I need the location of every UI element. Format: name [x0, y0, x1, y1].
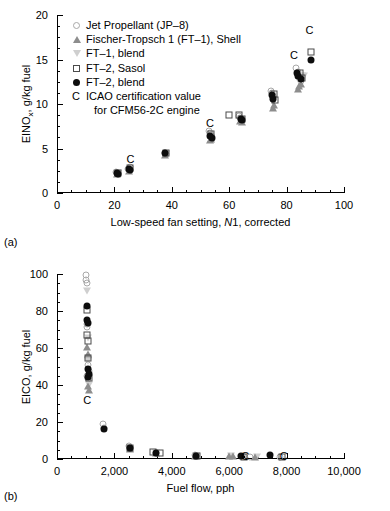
- y-axis-title-b: EICO, g/kg fuel: [20, 329, 32, 404]
- y-tick-major: [57, 104, 63, 105]
- data-point: C: [290, 50, 298, 61]
- y-tick-minor: [57, 171, 60, 172]
- y-tick-label: 60: [0, 343, 48, 354]
- x-tick-major: [344, 453, 345, 459]
- y-tick-minor: [57, 376, 60, 377]
- y-tick-minor: [57, 182, 60, 183]
- data-point: [239, 117, 246, 124]
- x-tick-minor: [244, 190, 245, 193]
- legend-continuation-row: for CFM56-2C engine: [72, 103, 241, 117]
- x-tick-minor: [201, 190, 202, 193]
- y-tick-minor: [57, 431, 60, 432]
- data-point: [84, 373, 91, 380]
- x-tick-minor: [315, 456, 316, 459]
- data-point: [307, 57, 314, 64]
- y-tick-minor: [57, 357, 60, 358]
- x-tick-major: [114, 187, 115, 193]
- data-point: [127, 444, 134, 451]
- marker-down-triangle: [73, 50, 81, 57]
- data-point: [307, 49, 314, 56]
- marker-open-square: [85, 355, 92, 362]
- marker-filled-circle: [270, 95, 277, 102]
- y-tick-minor: [57, 320, 60, 321]
- y-tick-label: 80: [0, 306, 48, 317]
- marker-filled-circle: [239, 117, 246, 124]
- x-tick-minor: [330, 456, 331, 459]
- x-tick-major: [287, 187, 288, 193]
- legend-item: Jet Propellant (JP–8): [72, 18, 241, 32]
- x-tick-label: 40: [166, 200, 178, 211]
- x-tick-minor: [71, 456, 72, 459]
- x-tick-minor: [315, 190, 316, 193]
- y-tick-major: [57, 422, 63, 423]
- legend-item: CICAO certification value: [72, 89, 241, 103]
- panel-label-a: (a): [4, 236, 17, 248]
- data-point: [83, 287, 91, 294]
- legend-marker: [72, 49, 83, 58]
- x-tick-minor: [215, 456, 216, 459]
- data-point: [83, 280, 90, 287]
- y-tick-minor: [57, 404, 60, 405]
- x-tick-label: 60: [223, 200, 235, 211]
- legend: Jet Propellant (JP–8)Fischer-Tropsch 1 (…: [72, 18, 241, 117]
- x-tick-minor: [186, 190, 187, 193]
- marker-filled-circle: [84, 320, 91, 327]
- marker-filled-circle: [266, 452, 273, 459]
- data-point: C: [83, 394, 91, 405]
- marker-letter-c: C: [280, 451, 288, 462]
- marker-letter-c: C: [306, 25, 314, 36]
- y-tick-major: [57, 311, 63, 312]
- x-tick-minor: [186, 456, 187, 459]
- data-point: [297, 76, 304, 83]
- marker-filled-circle: [153, 450, 160, 457]
- y-tick-label: 15: [0, 54, 48, 65]
- data-point: C: [206, 118, 214, 129]
- y-tick-major: [57, 459, 63, 460]
- marker-filled-circle: [73, 79, 80, 86]
- x-tick-label: 4,000: [158, 466, 186, 477]
- x-tick-major: [172, 187, 173, 193]
- marker-letter-c: C: [126, 153, 134, 164]
- marker-filled-circle: [101, 426, 108, 433]
- x-tick-label: 20: [108, 200, 120, 211]
- y-tick-minor: [57, 82, 60, 83]
- x-tick-minor: [71, 190, 72, 193]
- y-tick-label: 40: [0, 380, 48, 391]
- x-tick-minor: [301, 190, 302, 193]
- marker-filled-circle: [127, 444, 134, 451]
- y-tick-minor: [57, 441, 60, 442]
- legend-item: Fischer-Tropsch 1 (FT–1), Shell: [72, 32, 241, 46]
- data-point: [153, 450, 160, 457]
- data-point: [266, 452, 273, 459]
- x-tick-minor: [157, 190, 158, 193]
- data-point: [208, 134, 215, 141]
- marker-up-triangle: [85, 386, 93, 393]
- data-point: [84, 337, 91, 344]
- figure-container: CCCC Low-speed fan setting, N1, correcte…: [0, 0, 390, 511]
- data-point: [162, 149, 169, 156]
- legend-item: FT–2, blend: [72, 75, 241, 89]
- marker-up-triangle: [73, 36, 81, 43]
- legend-item: FT–1, blend: [72, 46, 241, 60]
- data-point: [127, 166, 134, 173]
- marker-letter-c: C: [241, 451, 249, 462]
- y-tick-minor: [57, 37, 60, 38]
- marker-filled-circle: [162, 149, 169, 156]
- y-tick-minor: [57, 339, 60, 340]
- legend-continuation-label: for CFM56-2C engine: [72, 103, 200, 117]
- y-tick-minor: [57, 302, 60, 303]
- legend-label: Fischer-Tropsch 1 (FT–1), Shell: [72, 32, 241, 46]
- marker-open-square: [307, 49, 314, 56]
- data-point: [85, 355, 92, 362]
- data-point: [84, 303, 91, 310]
- legend-marker: [72, 35, 83, 44]
- x-tick-label: 100: [335, 200, 353, 211]
- panel-a: CCCC Low-speed fan setting, N1, correcte…: [0, 0, 390, 255]
- x-tick-minor: [100, 190, 101, 193]
- data-point: [270, 95, 277, 102]
- y-tick-minor: [57, 137, 60, 138]
- x-tick-minor: [143, 456, 144, 459]
- y-tick-minor: [57, 126, 60, 127]
- x-tick-label: 80: [280, 200, 292, 211]
- data-point: [101, 426, 108, 433]
